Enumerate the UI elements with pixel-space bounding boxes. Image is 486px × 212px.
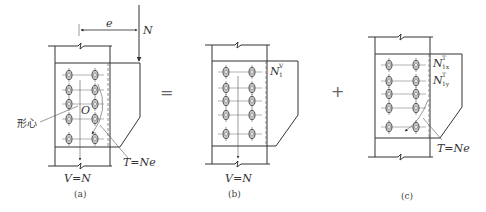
caption-a: (a) bbox=[74, 189, 86, 199]
bolt-force-label-cy: N T 1y bbox=[432, 71, 450, 88]
torque-label: T=Ne bbox=[123, 156, 156, 169]
plus-sign: + bbox=[331, 82, 344, 101]
bolt-group-b bbox=[223, 65, 255, 141]
load-label: N bbox=[142, 24, 153, 37]
bolted-connection-diagram: e N O 形心 T=Ne V=N (a) = bbox=[0, 0, 486, 212]
svg-text:1y: 1y bbox=[442, 80, 450, 88]
svg-text:T: T bbox=[442, 71, 446, 78]
svg-text:T: T bbox=[442, 54, 446, 61]
bolt-group-c bbox=[386, 58, 419, 134]
caption-b: (b) bbox=[228, 189, 241, 199]
torque-label: T=Ne bbox=[437, 142, 470, 155]
svg-text:V: V bbox=[278, 62, 284, 69]
panel-a: e N O 形心 T=Ne V=N (a) bbox=[17, 5, 156, 199]
svg-text:1x: 1x bbox=[442, 63, 450, 70]
caption-c: (c) bbox=[401, 191, 413, 201]
bolt-force-label-b: N V 1 bbox=[269, 62, 284, 78]
panel-b: N V 1 V=N (b) bbox=[205, 42, 298, 199]
centroid-point-label: O bbox=[81, 104, 90, 117]
equals-sign: = bbox=[160, 83, 173, 102]
svg-text:1: 1 bbox=[279, 71, 283, 78]
shear-label: V=N bbox=[64, 172, 91, 185]
centroid-label: 形心 bbox=[17, 118, 37, 129]
shear-label: V=N bbox=[225, 172, 252, 185]
eccentricity-label: e bbox=[106, 17, 113, 30]
panel-c: N T 1x N T 1y T=Ne (c) bbox=[368, 34, 470, 201]
torque-leader bbox=[423, 118, 442, 140]
bolt-force-label-cx: N T 1x bbox=[432, 54, 450, 70]
